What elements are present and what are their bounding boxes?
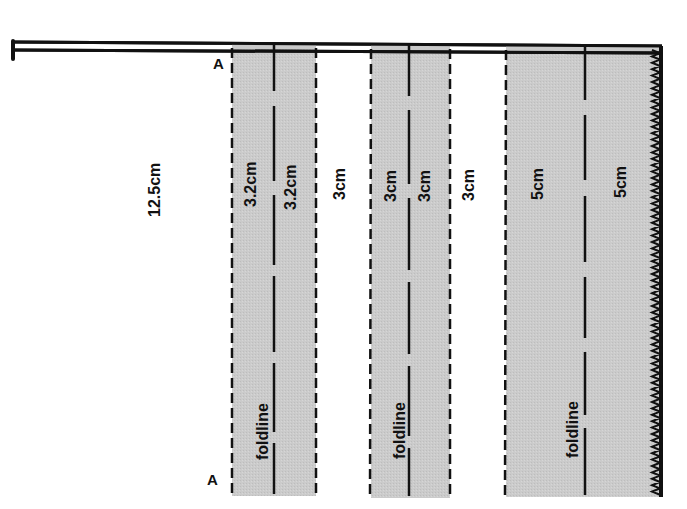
- hem-band: [506, 45, 659, 497]
- stitch-line: [370, 49, 371, 498]
- stitch-line: [505, 50, 506, 497]
- foldline-label-1: foldline: [254, 403, 271, 460]
- shaded-bands: [232, 45, 659, 498]
- measure-pleat1-right: 3.2cm: [282, 165, 299, 210]
- pleat2-band: [371, 45, 450, 498]
- foldline-label-3: foldline: [564, 401, 581, 458]
- measure-plain: 12.5cm: [146, 163, 163, 217]
- measure-pleat1-left: 3.2cm: [242, 162, 259, 207]
- foldline-label-2: foldline: [391, 402, 408, 459]
- measure-hem-right: 5cm: [612, 166, 629, 198]
- point-A-top: A: [213, 55, 224, 72]
- measure-pleat2-right: 3cm: [416, 170, 433, 202]
- measure-gap2: 3cm: [460, 169, 477, 201]
- measure-pleat2-left: 3cm: [382, 170, 399, 202]
- measure-hem-left: 5cm: [529, 168, 546, 200]
- pattern-diagram: A A 12.5cm 3.2cm 3.2cm 3cm 3cm 3cm 3cm 5…: [0, 0, 687, 509]
- point-A-bottom: A: [207, 471, 218, 488]
- measure-gap1: 3cm: [331, 168, 348, 200]
